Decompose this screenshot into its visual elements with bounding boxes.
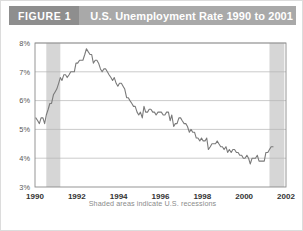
- recession-shaded-band: [46, 43, 60, 187]
- y-axis-tick-label: 7%: [19, 68, 30, 77]
- chart-caption: Shaded areas indicate U.S. recessions: [9, 199, 296, 208]
- chart-area: 3%4%5%6%7%8%1990199219941996199820002002…: [9, 29, 296, 225]
- plot-frame: [35, 43, 286, 187]
- figure-number-label: FIGURE 1: [9, 6, 79, 25]
- figure-header: FIGURE 1 U.S. Unemployment Rate 1990 to …: [9, 6, 296, 25]
- y-axis-tick-label: 6%: [19, 96, 30, 105]
- y-axis-tick-label: 3%: [19, 183, 30, 192]
- unemployment-line-chart: 3%4%5%6%7%8%1990199219941996199820002002: [9, 29, 296, 225]
- figure-container: FIGURE 1 U.S. Unemployment Rate 1990 to …: [0, 0, 303, 231]
- unemployment-rate-line: [36, 49, 273, 164]
- y-axis-tick-label: 5%: [19, 125, 30, 134]
- recession-shaded-band: [269, 43, 284, 187]
- y-axis-tick-label: 8%: [19, 39, 30, 48]
- y-axis-tick-label: 4%: [19, 154, 30, 163]
- page-title: U.S. Unemployment Rate 1990 to 2001: [79, 6, 296, 25]
